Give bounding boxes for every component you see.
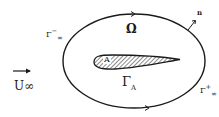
gamma-subscript: ∞ [211,90,217,98]
gamma-symbol: Γ [122,74,131,89]
inflow-boundary-label: Γ−∞ [46,31,63,39]
normal-vector-arrow-icon [188,21,195,30]
gamma-subscript: A [131,84,136,92]
freestream-velocity-label: U∞ [14,80,34,92]
infinity-symbol: ∞ [24,79,34,93]
airfoil-area-label: A [103,56,111,64]
freestream-arrowhead-icon [26,69,31,74]
velocity-symbol: U [14,79,24,93]
gamma-subscript: ∞ [57,34,63,42]
normal-vector-label: n [197,9,202,16]
domain-omega-label: Ω [126,23,137,35]
outflow-boundary-label: Γ+∞ [200,87,217,95]
airfoil-boundary-label: ΓA [122,75,136,88]
